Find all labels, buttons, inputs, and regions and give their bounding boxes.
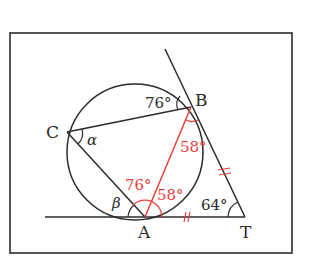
equal-mark-BT-1 bbox=[218, 168, 230, 170]
angle-label-A-right: 58° bbox=[157, 186, 184, 204]
point-label-T: T bbox=[240, 222, 252, 242]
angle-label-B-black: 76° bbox=[145, 94, 172, 112]
angle-label-B-red: 58° bbox=[180, 138, 207, 156]
alpha-arc bbox=[78, 129, 83, 144]
chord-CB bbox=[67, 107, 191, 132]
point-label-A: A bbox=[137, 222, 151, 242]
angle-T-arc bbox=[228, 202, 238, 217]
point-label-B: B bbox=[195, 90, 208, 110]
point-label-C: C bbox=[46, 122, 59, 142]
angle-label-alpha: α bbox=[87, 131, 97, 149]
angle-label-beta: β bbox=[111, 194, 121, 212]
angle-B-red-arc bbox=[186, 120, 198, 121]
beta-arc bbox=[128, 205, 134, 217]
diagram-frame bbox=[10, 33, 292, 253]
angle-label-A-left: 76° bbox=[125, 176, 152, 194]
angle-label-T: 64° bbox=[201, 196, 228, 214]
geometry-diagram: B C A T 76° 58° 76° 58° 64° α β bbox=[0, 0, 312, 272]
